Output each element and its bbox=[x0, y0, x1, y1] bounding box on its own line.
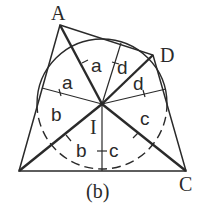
incenter-label-I: I bbox=[90, 116, 97, 138]
tangential-quadrilateral-diagram: A D C I a a d d b b c c (b) bbox=[0, 0, 208, 224]
tick-mark bbox=[133, 133, 138, 138]
vertex-label-D: D bbox=[160, 44, 174, 66]
incircle-upper-arc bbox=[37, 39, 167, 104]
segment-label-b: b bbox=[51, 104, 62, 125]
segment-label-c: c bbox=[140, 108, 150, 129]
tick-mark bbox=[66, 135, 71, 141]
segment-label-b: b bbox=[76, 140, 87, 161]
segment-label-c: c bbox=[109, 140, 119, 161]
segment-label-a: a bbox=[62, 72, 73, 93]
figure-caption: (b) bbox=[86, 180, 109, 203]
segment-label-d: d bbox=[117, 57, 128, 78]
vertex-label-C: C bbox=[179, 173, 192, 195]
segment-label-a: a bbox=[91, 55, 102, 76]
segment-label-d: d bbox=[133, 73, 144, 94]
vertex-label-A: A bbox=[51, 2, 66, 24]
tick-mark bbox=[82, 60, 88, 63]
